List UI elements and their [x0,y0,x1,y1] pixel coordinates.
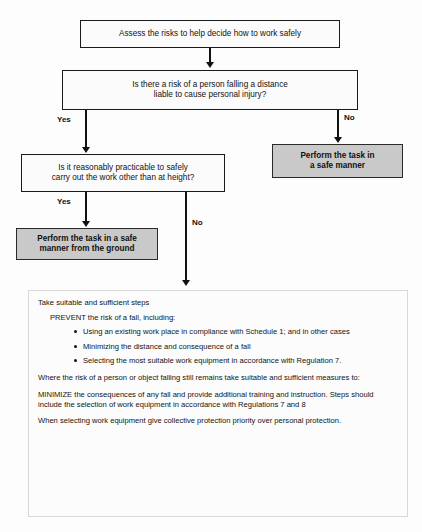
branch-label-decision2-no: No [192,219,203,227]
branch-label-decision1-no: No [344,114,355,122]
steps-panel: Take suitable and sufficient steps PREVE… [28,290,408,517]
panel-bullet-list: Using an existing work place in complian… [38,327,398,366]
connector-decision1-no [337,110,339,138]
arrowhead-decision2-yes [82,221,90,227]
node-decision-practicable-label: Is it reasonably practicable to safely c… [52,163,194,183]
connector-decision2-yes [85,192,87,222]
node-assess-risks-label: Assess the risks to help decide how to w… [119,29,301,39]
node-perform-task-safe-manner-label: Perform the task in a safe manner [300,151,374,171]
connector-decision1-yes [85,110,87,148]
node-decision-risk-of-falling: Is there a risk of a person falling a di… [62,70,358,110]
arrowhead-decision1-yes [82,147,90,153]
node-decision-practicable-other-than-height: Is it reasonably practicable to safely c… [21,154,225,192]
branch-label-decision1-yes: Yes [57,116,71,124]
panel-bullet-item: Minimizing the distance and consequence … [74,342,398,352]
connector-decision2-no [185,192,187,281]
node-perform-task-from-ground-label: Perform the task in a safe manner from t… [37,234,137,254]
node-perform-task-safe-manner: Perform the task in a safe manner [272,144,403,178]
connector-start-to-decision1 [209,48,211,63]
node-assess-risks: Assess the risks to help decide how to w… [80,20,340,48]
panel-subheading: PREVENT the risk of a fall, including: [50,313,398,323]
panel-bullet-item: Using an existing work place in complian… [74,327,398,337]
panel-paragraph: MINIMIZE the consequences of any fall an… [38,390,398,410]
node-perform-task-from-ground: Perform the task in a safe manner from t… [16,228,158,260]
panel-lead: Take suitable and sufficient steps [38,298,398,308]
panel-bullet-item: Selecting the most suitable work equipme… [74,356,398,366]
flowchart-canvas: Assess the risks to help decide how to w… [0,0,422,532]
panel-paragraph: When selecting work equipment give colle… [38,416,398,426]
arrowhead-start-to-decision1 [206,62,214,68]
arrowhead-decision2-no [182,280,190,286]
node-decision-risk-of-falling-label: Is there a risk of a person falling a di… [132,80,288,100]
branch-label-decision2-yes: Yes [57,198,71,206]
arrowhead-decision1-no [334,137,342,143]
panel-paragraph: Where the risk of a person or object fal… [38,373,398,383]
